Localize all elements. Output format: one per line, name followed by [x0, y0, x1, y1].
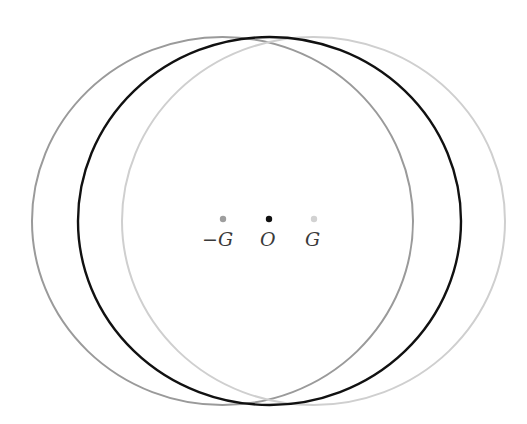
- label-O: O: [260, 228, 276, 250]
- diagram-canvas: −G O G: [0, 0, 527, 424]
- point-O: [266, 216, 272, 222]
- label-G: G: [305, 228, 320, 250]
- point-G: [311, 216, 317, 222]
- point-minus-G: [220, 216, 226, 222]
- label-minus-G: −G: [202, 228, 233, 250]
